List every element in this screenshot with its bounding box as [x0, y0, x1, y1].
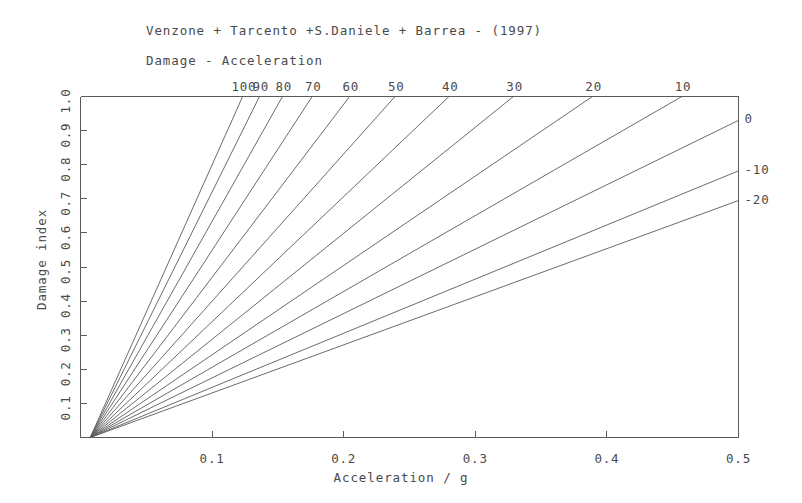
y-tick-label: 0.6: [58, 225, 73, 250]
x-tick-label: 0.3: [459, 451, 491, 466]
y-tick-label: 0.7: [58, 191, 73, 216]
series-label-0: 0: [745, 111, 753, 126]
y-tick-label: 0.3: [58, 327, 73, 352]
data-line-30: [90, 97, 513, 438]
y-tick-label: 0.8: [58, 157, 73, 182]
series-label-60: 60: [343, 79, 360, 94]
x-tick-label: 0.5: [723, 451, 755, 466]
series-label-20: 20: [585, 79, 602, 94]
data-line-50: [90, 97, 395, 438]
series-label-40: 40: [442, 79, 459, 94]
y-tick-label: 1.0: [58, 89, 73, 114]
series-label-neg10: -10: [745, 162, 770, 177]
y-tick-label: 0.2: [58, 361, 73, 386]
data-line-neg20: [90, 201, 738, 438]
x-tick-label: 0.4: [591, 451, 623, 466]
data-line-neg10: [90, 171, 738, 438]
data-lines: [90, 97, 738, 438]
data-line-40: [90, 97, 449, 438]
y-tick-label: 0.9: [58, 123, 73, 148]
data-line-0: [90, 120, 738, 437]
series-label-90: 90: [252, 79, 269, 94]
y-tick-label: 0.1: [58, 395, 73, 420]
series-label-10: 10: [675, 79, 692, 94]
data-line-10: [90, 97, 682, 438]
data-line-80: [90, 97, 282, 438]
x-tick-label: 0.1: [196, 451, 228, 466]
series-label-80: 80: [275, 79, 292, 94]
series-label-neg20: -20: [745, 192, 770, 207]
x-tick-label: 0.2: [328, 451, 360, 466]
chart-root: Venzone + Tarcento +S.Daniele + Barrea -…: [0, 0, 802, 503]
series-label-50: 50: [388, 79, 405, 94]
y-tick-label: 0.5: [58, 259, 73, 284]
series-label-70: 70: [305, 79, 322, 94]
y-tick-label: 0.4: [58, 293, 73, 318]
data-line-20: [90, 97, 592, 438]
data-line-90: [90, 97, 259, 438]
series-label-30: 30: [506, 79, 523, 94]
data-line-70: [90, 97, 312, 438]
plot-area: [0, 0, 802, 503]
